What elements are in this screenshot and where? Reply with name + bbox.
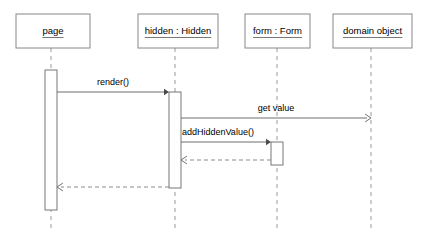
participant-label-hidden: hidden : Hidden xyxy=(145,25,212,36)
participant-page[interactable]: page xyxy=(16,14,90,48)
hidden-activation xyxy=(169,92,181,188)
form-activation xyxy=(271,142,283,165)
lifelines-layer xyxy=(51,48,371,231)
participant-domain_object[interactable]: domain object xyxy=(333,14,412,48)
message-arrowhead-add-hidden-value xyxy=(266,139,271,145)
message-arrowhead-render xyxy=(164,89,169,95)
message-label-add-hidden-value: addHiddenValue() xyxy=(182,127,254,137)
participant-label-form: form : Form xyxy=(253,25,302,36)
message-render: render() xyxy=(57,77,169,95)
participant-label-domain_object: domain object xyxy=(343,25,403,36)
message-hidden-return xyxy=(57,183,169,190)
message-add-hidden-value: addHiddenValue() xyxy=(181,127,271,145)
sequence-diagram: render()get valueaddHiddenValue() pagehi… xyxy=(0,0,427,246)
participants-layer: pagehidden : Hiddenform : Formdomain obj… xyxy=(16,14,412,48)
messages-layer: render()get valueaddHiddenValue() xyxy=(57,77,371,191)
participant-label-page: page xyxy=(42,25,63,36)
participant-form[interactable]: form : Form xyxy=(245,14,310,48)
message-label-render: render() xyxy=(97,77,129,87)
sequence-diagram-canvas: render()get valueaddHiddenValue() pagehi… xyxy=(0,0,427,246)
message-label-get-value: get value xyxy=(258,103,295,113)
message-get-value: get value xyxy=(181,103,371,122)
participant-hidden[interactable]: hidden : Hidden xyxy=(138,14,218,48)
page-activation xyxy=(45,70,57,210)
message-form-return xyxy=(181,156,271,163)
